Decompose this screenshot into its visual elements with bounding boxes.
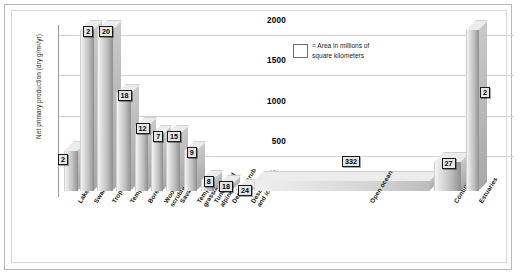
bar-front-face <box>166 135 180 191</box>
figure-root: Net primary production (dry g/m²/yr) 500… <box>0 0 522 280</box>
bar-value-label: 27 <box>442 158 456 169</box>
bar-front-face <box>97 30 113 191</box>
bar-value-label: 2 <box>480 87 490 98</box>
bar-value-label: 8 <box>204 176 214 187</box>
bar-temperate-grassland <box>184 151 196 200</box>
y-axis-title: Net primary production (dry g/m²/yr) <box>35 17 42 157</box>
bar-value-label: 18 <box>219 181 233 192</box>
figure-inner-border: Net primary production (dry g/m²/yr) 500… <box>11 10 507 263</box>
bar-front-face <box>151 135 163 191</box>
y-axis-tick-label: 2000 <box>226 16 286 25</box>
bar-estuaries <box>466 30 478 200</box>
bar-value-label: 12 <box>136 123 150 134</box>
bar-front-face <box>116 94 131 191</box>
bar-value-label: 332 <box>342 156 360 167</box>
legend-line-1: = Area in millions of <box>312 41 369 51</box>
legend-text: = Area in millions of square kilometers <box>312 41 369 60</box>
bar-value-label: 2 <box>58 154 68 165</box>
bar-boreal-forest <box>135 127 147 200</box>
bar-value-label: 18 <box>118 90 132 101</box>
bar-side-face <box>478 21 487 191</box>
bar-temperate-forest <box>116 94 130 200</box>
bars-layer: 2Lake and stream2Swamp and marsh20Tropic… <box>58 25 514 200</box>
legend: = Area in millions of square kilometers <box>293 41 443 67</box>
bar-swamp-and-marsh <box>80 30 93 200</box>
legend-line-2: square kilometers <box>312 51 369 61</box>
bar-value-label: 24 <box>238 185 252 196</box>
bar-front-face <box>135 127 148 191</box>
bar-front-face <box>254 181 430 191</box>
legend-swatch-icon <box>293 44 308 58</box>
bar-front-face <box>80 30 94 191</box>
bar-front-face <box>466 30 479 191</box>
bar-value-label: 9 <box>187 147 197 158</box>
bar-value-label: 7 <box>153 131 163 142</box>
bar-value-label: 15 <box>167 131 181 142</box>
bar-value-label: 20 <box>99 26 113 37</box>
bar-woodland-and-scrubland <box>151 135 162 200</box>
bar-top-face <box>254 171 439 181</box>
bar-open-ocean <box>254 181 429 200</box>
bar-tropical-forest <box>97 30 112 200</box>
bar-value-label: 2 <box>83 26 93 37</box>
bar-savanna <box>166 135 179 200</box>
